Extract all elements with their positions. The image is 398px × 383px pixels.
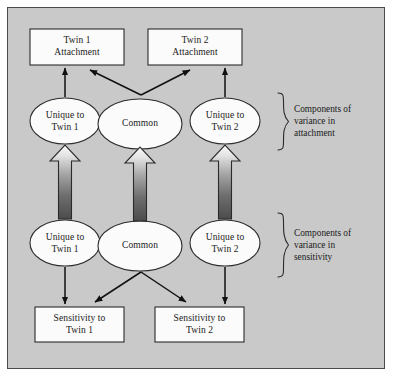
block-arrow-unique-twin1 xyxy=(50,145,80,219)
arrow-sensitivity-common-to-box2 xyxy=(141,272,186,302)
twin1-attachment-box xyxy=(30,29,124,65)
sensitivity-common-ellipse xyxy=(98,221,182,271)
attachment-brace-icon xyxy=(278,93,289,150)
sensitivity-unique-twin1-ellipse xyxy=(30,220,100,266)
attachment-unique-twin2-ellipse xyxy=(190,98,260,144)
figure-root: Twin 1 Attachment Twin 2 Attachment Uniq… xyxy=(0,0,398,383)
twin2-attachment-box xyxy=(148,29,242,65)
attachment-common-ellipse xyxy=(98,99,182,149)
diagram-canvas xyxy=(0,0,398,383)
arrow-sensitivity-common-to-box1 xyxy=(95,272,141,302)
arrow-attachment-common-to-twin1box xyxy=(90,70,141,95)
sensitivity-brace-icon xyxy=(278,213,289,277)
arrow-attachment-common-to-twin2box xyxy=(141,70,190,95)
block-arrow-common xyxy=(125,147,155,221)
sensitivity-twin1-box xyxy=(35,307,124,342)
block-arrow-unique-twin2 xyxy=(210,145,240,219)
attachment-unique-twin1-ellipse xyxy=(30,98,100,144)
sensitivity-twin2-box xyxy=(155,307,244,342)
sensitivity-unique-twin2-ellipse xyxy=(190,220,260,266)
